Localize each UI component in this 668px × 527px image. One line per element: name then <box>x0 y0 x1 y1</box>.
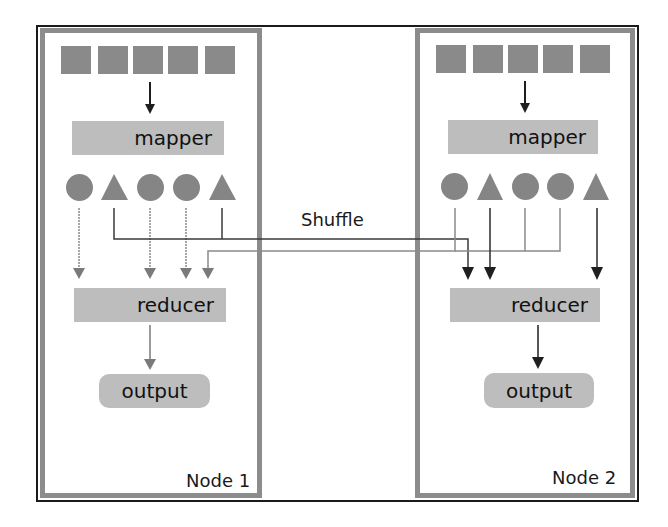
node-1-reducer-arrow <box>144 325 156 370</box>
node-2-key-triangle <box>583 173 609 200</box>
node-2-key-triangle <box>477 173 503 200</box>
node-1-input-arrow <box>145 82 155 114</box>
node-1-key-triangle <box>101 174 128 200</box>
node-2-local-arrowheads <box>484 267 603 280</box>
node-2-local-arrows <box>490 208 597 268</box>
node-1-local-arrows <box>79 208 186 268</box>
shuffle-circles-to-node-1 <box>208 208 560 268</box>
node-2-reducer-arrow <box>532 325 544 369</box>
node-2-input-arrow <box>520 81 530 113</box>
node-2-shuffle-arrowhead <box>462 267 474 280</box>
connector-layer <box>0 0 668 527</box>
shuffle-triangles-to-node-2 <box>114 208 468 268</box>
node-1-local-arrowheads <box>73 268 214 279</box>
node-1-key-triangle <box>209 174 236 200</box>
